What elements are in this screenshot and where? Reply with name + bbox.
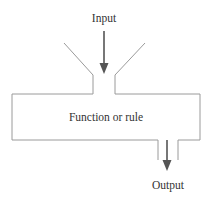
machine-outline — [12, 43, 200, 160]
function-machine-diagram: Input Function or rule Output — [0, 0, 210, 206]
function-label: Function or rule — [69, 111, 143, 123]
input-arrow-icon — [100, 31, 109, 74]
input-label: Input — [92, 12, 117, 25]
funnel-left-wall — [12, 43, 158, 160]
output-arrow-icon — [163, 140, 172, 171]
output-label: Output — [152, 179, 185, 192]
